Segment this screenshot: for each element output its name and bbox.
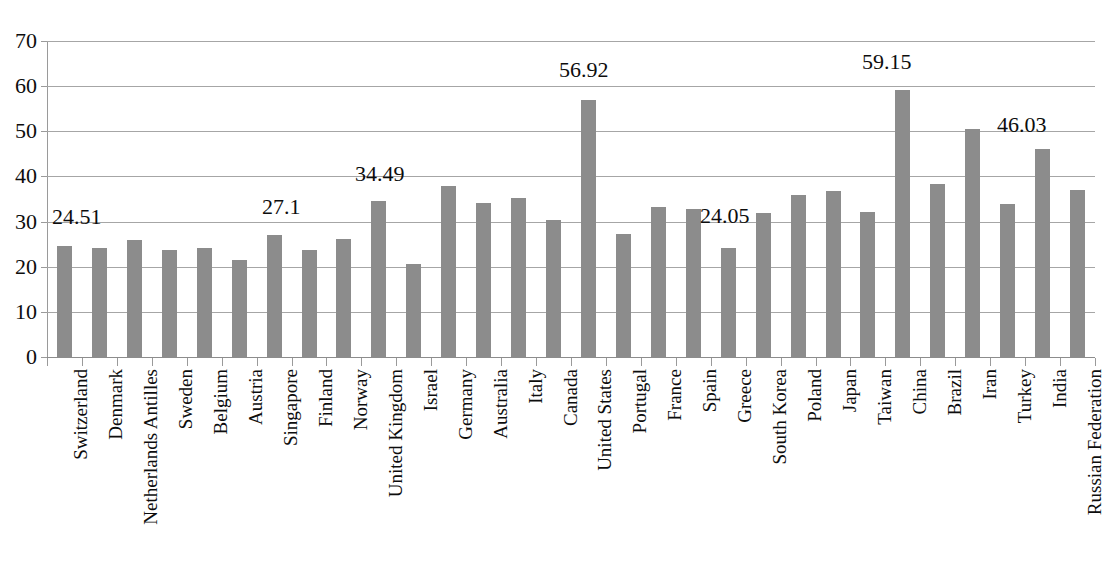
x-tick-mark [676,358,677,366]
x-axis-label: Taiwan [875,369,894,425]
bar [930,184,945,357]
value-label: 59.15 [862,51,912,73]
bar [895,90,910,357]
y-tick-label-40: 40 [0,165,37,187]
value-label: 27.1 [262,196,301,218]
bar [92,248,107,357]
gridline-70 [47,41,1095,42]
bar [1000,204,1015,357]
x-axis-label: Australia [491,369,510,439]
bar [1070,190,1085,357]
value-label: 24.51 [52,206,102,228]
x-axis-label: Japan [840,369,859,412]
x-axis-label: South Korea [770,369,789,465]
x-axis-label: Netherlands Antilles [141,369,160,525]
x-tick-mark [746,358,747,366]
bar [860,212,875,357]
x-tick-mark [187,358,188,366]
bar [826,191,841,357]
x-tick-mark [501,358,502,366]
x-tick-mark [257,358,258,366]
x-tick-mark [571,358,572,366]
x-tick-mark [47,358,48,366]
x-tick-mark [920,358,921,366]
x-axis-label: Turkey [1015,369,1034,423]
x-tick-mark [82,358,83,366]
bar [441,186,456,357]
x-tick-mark [222,358,223,366]
x-tick-mark [292,358,293,366]
x-axis-label: France [665,369,684,421]
x-axis-label: Spain [700,369,719,412]
x-tick-mark [606,358,607,366]
bar [267,235,282,357]
gridline-40 [47,176,1095,177]
y-tick-label-0: 0 [0,346,37,368]
bar [197,248,212,357]
bar [616,234,631,357]
x-tick-mark [466,358,467,366]
x-tick-mark [431,358,432,366]
x-axis-label: Italy [526,369,545,404]
x-axis-label: Poland [805,369,824,422]
bar [162,250,177,357]
bar [546,220,561,357]
chart-title [0,0,1103,4]
x-tick-mark [1095,358,1096,366]
bar [721,248,736,357]
bar [336,239,351,357]
x-tick-mark [1060,358,1061,366]
x-tick-mark [781,358,782,366]
bar [651,207,666,357]
y-tick-label-30: 30 [0,211,37,233]
x-tick-mark [1025,358,1026,366]
bar [232,260,247,357]
x-axis-label: Austria [246,369,265,425]
bar [756,213,771,357]
x-axis-label: United Kingdom [386,369,405,497]
x-axis-label: Germany [456,369,475,440]
bar-chart: 010203040506070 SwitzerlandDenmarkNether… [0,0,1103,573]
bar [511,198,526,357]
x-tick-mark [396,358,397,366]
x-axis-label: Russian Federation [1085,369,1103,515]
x-axis-label: Belgium [211,369,230,434]
x-tick-mark [536,358,537,366]
x-tick-mark [711,358,712,366]
x-tick-mark [850,358,851,366]
x-tick-mark [990,358,991,366]
x-axis-label: Singapore [281,369,300,446]
x-axis-label: Switzerland [71,369,90,460]
x-axis-label: China [910,369,929,414]
y-tick-label-20: 20 [0,256,37,278]
bar [371,201,386,357]
bar [1035,149,1050,357]
x-tick-mark [117,358,118,366]
x-tick-mark [361,358,362,366]
x-axis-label: Norway [351,369,370,430]
value-label: 56.92 [559,59,609,81]
x-tick-mark [641,358,642,366]
x-axis-label: Denmark [106,369,125,440]
bar [57,246,72,357]
bar [965,129,980,357]
value-label: 24.05 [700,205,750,227]
x-axis-label: Finland [316,369,335,427]
y-tick-label-50: 50 [0,120,37,142]
x-axis-label: Brazil [945,369,964,415]
plot-area [47,41,1095,357]
bar [476,203,491,357]
x-tick-mark [152,358,153,366]
bar [406,264,421,357]
gridline-60 [47,86,1095,87]
x-axis-label: Iran [980,369,999,400]
x-tick-mark [885,358,886,366]
x-axis-label: United States [595,369,614,471]
value-label: 34.49 [355,163,405,185]
x-axis-label: Greece [735,369,754,423]
x-axis-label: Israel [421,369,440,411]
x-axis-label: India [1050,369,1069,408]
bar [791,195,806,357]
x-tick-mark [955,358,956,366]
y-tick-label-60: 60 [0,75,37,97]
